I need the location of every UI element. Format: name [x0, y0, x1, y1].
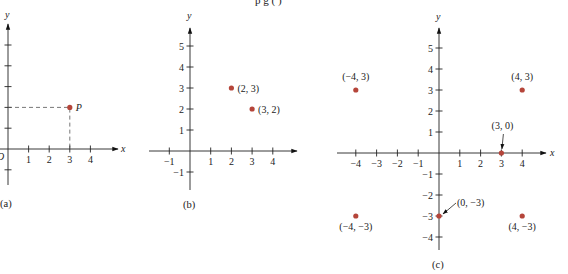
- panel-a-x-tick-label: 3: [67, 154, 72, 165]
- panel-c-x-axis-label: x: [549, 147, 555, 158]
- panel-b-point-label: (3, 2): [258, 104, 280, 116]
- panel-c-y-tick-label: 5: [428, 43, 433, 54]
- panel-c-x-tick-label: 1: [457, 158, 462, 169]
- panel-c-x-tick-label: −2: [392, 158, 403, 169]
- panel-b-y-tick-label: 3: [179, 83, 184, 94]
- panel-c-point: [353, 213, 358, 218]
- panel-c-x-tick-label: 2: [478, 158, 483, 169]
- panel-c-x-tick-label: −1: [413, 158, 424, 169]
- panel-c-point-label: (3, 0): [492, 120, 514, 132]
- panel-c-y-tick-label: −1: [422, 169, 433, 180]
- panel-b-y-tick-label: −1: [173, 167, 184, 178]
- panel-c-y-tick-label: 2: [428, 106, 433, 117]
- header-fragment: p g ( ): [255, 0, 282, 7]
- panel-b-y-tick-label: 1: [179, 125, 184, 136]
- panel-b-x-tick-label: 1: [208, 156, 213, 167]
- panel-c-y-tick-label: −2: [422, 190, 433, 201]
- panel-c-y-tick-label: 1: [428, 127, 433, 138]
- panel-c: x y −4−3−2−11234 −4−3−2−112345 (−4, 3)(4…: [337, 11, 555, 271]
- panel-c-y-tick-label: −3: [422, 211, 433, 222]
- panel-a-x-tick-label: 2: [47, 154, 52, 165]
- panel-c-y-tick-label: −4: [422, 232, 433, 243]
- panel-c-point-label: (−4, 3): [342, 71, 369, 83]
- panel-a: x y O 1234 P (a): [0, 9, 126, 210]
- panel-c-point: [353, 87, 358, 92]
- panel-b-caption: (b): [183, 199, 196, 211]
- panel-a-point-label: P: [75, 102, 82, 113]
- panel-c-point-label: (4, 3): [511, 71, 533, 83]
- panel-a-origin-label: O: [0, 151, 4, 162]
- panel-a-y-axis-label: y: [4, 9, 10, 20]
- panel-b-y-tick-label: 5: [179, 41, 184, 52]
- panel-b-x-tick-label: 4: [270, 156, 275, 167]
- panel-b-point: [229, 85, 234, 90]
- panel-c-y-tick-label: 3: [428, 85, 433, 96]
- panel-b-x-tick-label: 2: [229, 156, 234, 167]
- panel-c-point: [520, 213, 525, 218]
- panel-c-point: [499, 150, 504, 155]
- panel-b-y-axis-label: y: [186, 10, 192, 21]
- panel-c-point: [436, 213, 441, 218]
- panel-c-point: [520, 87, 525, 92]
- panel-a-x-tick-label: 1: [26, 154, 31, 165]
- panel-c-y-tick-label: 4: [428, 64, 433, 75]
- panel-c-x-tick-label: 4: [520, 158, 525, 169]
- panel-b-x-tick-label: 3: [250, 156, 255, 167]
- panel-c-point-label: (0, −3): [457, 197, 484, 209]
- panel-b-y-tick-label: 4: [179, 62, 184, 73]
- panel-c-y-axis-label: y: [435, 11, 441, 22]
- panel-b-x-tick-label: −1: [164, 156, 175, 167]
- panel-c-point-label: (4, −3): [509, 221, 536, 233]
- panel-a-x-axis-label: x: [120, 143, 126, 154]
- coordinate-plane-figure: p g ( ) x y O 1234 P (a) y −11234 −11234…: [0, 0, 568, 274]
- panel-b-point: [250, 106, 255, 111]
- panel-c-x-tick-label: 3: [499, 158, 504, 169]
- panel-a-caption: (a): [0, 198, 12, 210]
- panel-c-point-label: (−4, −3): [339, 221, 372, 233]
- panel-b-y-tick-label: 2: [179, 104, 184, 115]
- panel-c-leader-arrow: [443, 203, 456, 214]
- panel-b: y −11234 −112345 (2, 3)(3, 2) (b): [149, 10, 297, 211]
- panel-c-x-tick-label: −3: [371, 158, 382, 169]
- panel-a-projection-lines: [8, 107, 70, 149]
- panel-a-x-tick-label: 4: [88, 154, 93, 165]
- panel-c-leader-arrow: [502, 134, 504, 149]
- panel-c-caption: (c): [432, 259, 444, 271]
- panel-c-x-tick-label: −4: [350, 158, 361, 169]
- panel-b-point-label: (2, 3): [237, 83, 259, 95]
- panel-a-point: [67, 105, 72, 110]
